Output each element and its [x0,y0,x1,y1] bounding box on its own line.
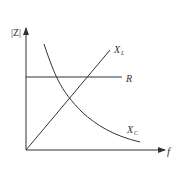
impedance-diagram: |Z| f R X L X C [0,0,185,171]
xc-label-sub: C [134,130,139,136]
xc-label: X [126,124,134,135]
xl-label: X [113,44,121,55]
y-axis-label: |Z| [11,27,21,38]
r-label: R [125,73,132,84]
x-axis-label: f [167,145,172,157]
xc-curve [44,44,140,142]
xl-label-sub: L [120,50,125,56]
xl-line [26,50,110,150]
